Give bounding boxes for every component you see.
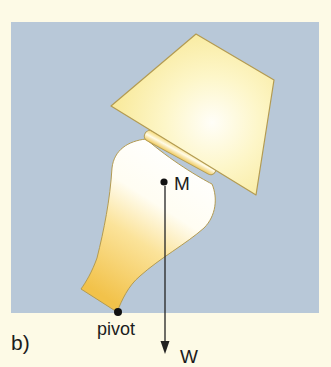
weight-label: W — [180, 347, 198, 366]
lamp-diagram — [0, 0, 331, 367]
pivot-dot — [114, 308, 122, 316]
pivot-label: pivot — [97, 320, 135, 338]
weight-arrow-head-icon — [161, 341, 170, 354]
center-of-mass-label: M — [174, 174, 190, 193]
center-of-mass-dot — [160, 178, 167, 185]
panel-label: b) — [11, 332, 30, 353]
